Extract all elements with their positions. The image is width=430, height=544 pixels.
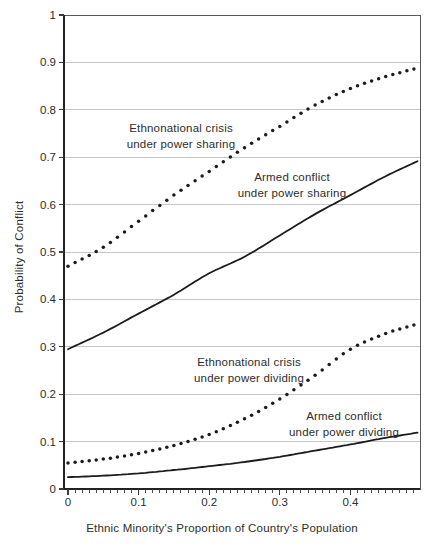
x-tick-label: 0.1 [131,496,147,508]
label-line: under power dividing [194,371,304,383]
y-axis-title: Probability of Conflict [13,201,25,314]
curve-dot [179,442,183,446]
y-tick-label: 0.5 [40,246,56,258]
y-tick-label: 1 [50,9,56,21]
curve-dot [257,410,261,414]
curve-dot [130,453,134,457]
label-line: under power sharing [127,137,236,149]
curve-dot [278,125,282,128]
curve-dot [391,73,395,77]
label-line: Armed conflict [306,410,382,422]
curve-dot [271,401,275,405]
curve-dot [215,165,219,169]
curve-dot [320,368,324,372]
y-tick-label: 0.2 [40,388,56,400]
curve-dot [320,100,324,104]
curve-dot [243,417,247,421]
label-line: under power dividing [289,425,399,437]
curve-dot [94,250,98,254]
curve-dot [412,67,416,71]
curve-dot [391,329,395,333]
curve-dot [306,378,310,382]
curve-dot [151,209,155,213]
x-tick-label: 0.2 [201,496,217,508]
curve-dot [398,327,402,331]
x-tick-label: 0 [65,496,71,508]
curve-dot [384,75,388,79]
curve-dot [87,254,91,258]
curve-dot [363,82,367,86]
curve-dot [236,421,240,425]
curve-dot [313,103,317,107]
label-line: under power sharing [238,186,347,198]
curve-dot [158,204,162,208]
y-tick-label: 0 [50,483,56,495]
curve-dot [102,246,106,250]
curve-dot [137,219,141,223]
curve-dot [257,137,261,141]
curve-dot [236,151,240,155]
curve-dot [207,170,211,174]
y-tick-label: 0.9 [40,56,56,68]
curve-dot [116,455,120,459]
label-ethnonational-crisis-power-sharing: Ethnonational crisis under power sharing [127,121,236,152]
curve-dot [335,357,339,361]
curve-dot [271,129,275,133]
curve-dot [327,363,331,367]
label-line: Ethnonational crisis [129,122,233,134]
y-tick-label: 0.4 [40,293,57,305]
curve-dot [116,236,120,240]
curve-dot [250,413,254,417]
curve-dot [370,79,374,83]
curve-dot [299,112,303,116]
curve-dot [193,179,197,183]
curve-dot [200,435,204,439]
curve-dot [405,69,409,73]
y-tick-label: 0.6 [40,199,56,211]
curve-dot [130,225,134,229]
curve-dot [87,459,91,463]
curve-dot [342,90,346,94]
curve-dot [278,397,282,401]
curve-dot [405,325,409,329]
curve-dot [377,334,381,338]
label-armed-conflict-power-dividing: Armed conflict under power dividing [289,409,399,440]
curve-dot [215,430,219,434]
curve-dot [179,188,183,192]
curve-dot [200,174,204,178]
curve-dot [229,424,233,428]
x-tick-label: 0.4 [342,496,359,508]
curve-dot [102,457,106,461]
curve-dot [370,337,374,341]
curve-dot [123,230,127,234]
curve-dot [80,460,84,464]
curve-dot [109,456,113,460]
curve-dot [349,347,353,351]
curve-dot [250,142,254,146]
label-line: Armed conflict [254,171,330,183]
curve-dot [73,460,77,464]
curve-dot [412,323,416,327]
curve-dot [66,264,70,268]
curve-dot [123,454,127,458]
y-tick-label: 0.8 [40,104,56,116]
curve-dot [144,450,148,454]
curve-dot [349,87,353,91]
y-tick-label: 0.3 [40,341,56,353]
curve-dot [151,449,155,453]
curve-dot [363,340,367,344]
curve-dot [264,406,268,410]
curve-dot [109,241,113,245]
curve-dot [66,461,70,465]
curve-dot [342,352,346,356]
curve-dot [306,107,310,111]
curve-dot [158,447,162,451]
curve-dot [292,116,296,120]
curve-dot [335,93,339,97]
y-tick-label: 0.7 [40,151,56,163]
curve-dot [165,198,169,202]
curve-dot [285,120,289,124]
curve-dot [80,257,84,261]
curve-dot [207,433,211,437]
curve-dot [137,452,141,456]
